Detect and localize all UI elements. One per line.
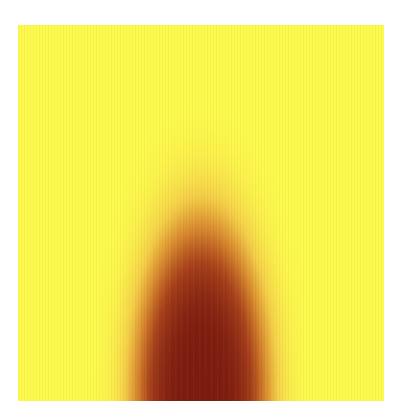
figure xyxy=(0,0,397,415)
heatmap-plot xyxy=(18,25,384,401)
heatmap-canvas xyxy=(18,25,384,401)
